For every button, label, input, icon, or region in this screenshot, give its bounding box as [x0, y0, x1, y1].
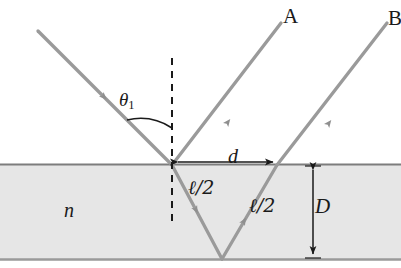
path-label-ell-half-left: ℓ/2	[188, 178, 214, 197]
reflected-ray-a	[172, 23, 281, 165]
emergent-ray-b-arrow	[329, 110, 339, 123]
ray-label-a: A	[283, 6, 298, 27]
ray-diagram-svg	[0, 0, 401, 268]
figure-canvas: A B θ1 d ℓ/2 ℓ/2 D n	[0, 0, 401, 268]
path-label-ell-half-right: ℓ/2	[249, 196, 275, 215]
reflected-ray-a-arrow	[228, 109, 238, 122]
separation-label-d: d	[228, 146, 238, 166]
thickness-label-D: D	[315, 196, 330, 217]
refractive-index-label-n: n	[64, 200, 74, 220]
theta-symbol: θ	[119, 89, 128, 110]
angle-label-theta1: θ1	[119, 90, 135, 109]
incident-ray	[38, 31, 172, 165]
theta-subscript: 1	[128, 98, 134, 112]
emergent-ray-b	[277, 23, 387, 165]
ray-label-b: B	[388, 8, 401, 29]
